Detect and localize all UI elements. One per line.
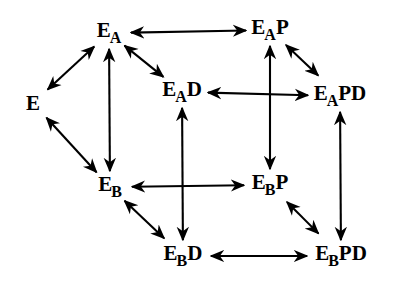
node-suffix: D: [187, 241, 202, 265]
edge-ead-ebd: [182, 108, 183, 240]
node-subscript: A: [327, 92, 339, 109]
edge-eapd-ebpd: [340, 112, 341, 240]
node-suffix: PD: [339, 241, 367, 265]
node-ebd: EBD: [162, 242, 205, 270]
node-ea: EA: [95, 19, 124, 47]
node-base-letter: E: [97, 18, 111, 42]
node-base-letter: E: [26, 91, 40, 115]
node-subscript: A: [264, 26, 276, 43]
edge-e-eb: [47, 118, 97, 173]
node-base-letter: E: [252, 170, 266, 194]
node-subscript: B: [177, 252, 188, 269]
edge-eb-ebd: [125, 201, 165, 238]
edge-ea-ead: [125, 46, 164, 77]
node-eap: EAP: [249, 16, 290, 44]
node-ebpd: EBPD: [313, 242, 369, 270]
node-e: E: [24, 92, 42, 115]
edge-ead-eapd: [208, 93, 308, 96]
node-suffix: PD: [338, 81, 366, 105]
node-eapd: EAPD: [312, 82, 369, 110]
edge-e-ea: [48, 47, 95, 90]
edge-ea-eap: [131, 30, 246, 32]
node-subscript: B: [328, 252, 339, 269]
node-base-letter: E: [251, 15, 265, 39]
node-suffix: P: [276, 15, 289, 39]
edge-ebp-ebpd: [287, 202, 318, 233]
node-subscript: B: [265, 181, 276, 198]
node-ebp: EBP: [250, 171, 291, 199]
lattice-diagram: EEAEAPEADEAPDEBEBPEBDEBPD: [0, 0, 405, 293]
edge-ea-eb: [109, 49, 110, 171]
node-suffix: P: [275, 170, 288, 194]
node-base-letter: E: [98, 172, 112, 196]
node-subscript: A: [175, 88, 187, 105]
node-subscript: A: [110, 29, 122, 46]
node-subscript: B: [111, 183, 122, 200]
node-base-letter: E: [162, 77, 176, 101]
edge-eap-eapd: [286, 45, 318, 75]
node-base-letter: E: [164, 241, 178, 265]
node-base-letter: E: [315, 241, 329, 265]
node-eb: EB: [96, 173, 124, 201]
node-ead: EAD: [160, 78, 204, 106]
node-suffix: D: [187, 77, 202, 101]
node-base-letter: E: [314, 81, 328, 105]
edge-eb-ebp: [132, 185, 244, 186]
